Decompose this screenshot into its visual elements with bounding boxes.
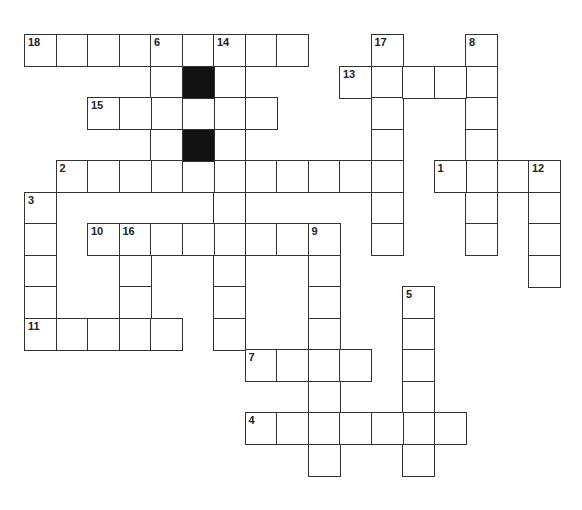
crossword-cell[interactable] [213,192,246,225]
crossword-cell[interactable] [213,160,246,193]
crossword-cell[interactable] [87,318,120,351]
clue-number: 1 [438,162,444,174]
black-cell [182,66,215,99]
crossword-cell[interactable] [119,97,152,130]
crossword-cell[interactable]: 4 [245,412,278,445]
crossword-cell[interactable]: 2 [56,160,89,193]
crossword-cell[interactable] [24,286,57,319]
crossword-cell[interactable] [213,255,246,288]
crossword-cell[interactable] [308,381,341,414]
crossword-cell[interactable] [182,160,215,193]
crossword-cell[interactable] [213,66,246,99]
crossword-cell[interactable] [119,34,152,67]
crossword-cell[interactable]: 12 [528,160,561,193]
crossword-cell[interactable] [308,349,341,382]
crossword-cell[interactable] [56,318,89,351]
crossword-cell[interactable]: 15 [87,97,120,130]
crossword-cell[interactable] [371,192,404,225]
crossword-cell[interactable]: 8 [465,34,498,67]
crossword-cell[interactable]: 7 [245,349,278,382]
crossword-cell[interactable] [213,223,246,256]
crossword-cell[interactable] [56,34,89,67]
crossword-cell[interactable] [245,223,278,256]
crossword-cell[interactable] [371,97,404,130]
crossword-cell[interactable]: 5 [402,286,435,319]
crossword-cell[interactable]: 13 [339,66,372,99]
crossword-cell[interactable] [371,66,404,99]
crossword-cell[interactable] [213,129,246,162]
crossword-cell[interactable] [434,66,467,99]
crossword-cell[interactable] [245,34,278,67]
crossword-cell[interactable] [465,66,498,99]
crossword-cell[interactable] [528,192,561,225]
crossword-cell[interactable]: 18 [24,34,57,67]
crossword-cell[interactable] [150,66,183,99]
crossword-cell[interactable]: 6 [150,34,183,67]
crossword-cell[interactable] [119,160,152,193]
crossword-cell[interactable] [245,97,278,130]
crossword-cell[interactable] [528,223,561,256]
crossword-cell[interactable] [528,255,561,288]
crossword-cell[interactable] [182,34,215,67]
crossword-cell[interactable]: 10 [87,223,120,256]
crossword-cell[interactable]: 11 [24,318,57,351]
crossword-cell[interactable] [182,223,215,256]
crossword-cell[interactable] [465,160,498,193]
crossword-cell[interactable] [276,223,309,256]
crossword-cell[interactable] [308,412,341,445]
crossword-cell[interactable] [371,223,404,256]
crossword-cell[interactable] [371,160,404,193]
crossword-cell[interactable] [339,160,372,193]
crossword-cell[interactable] [276,160,309,193]
crossword-cell[interactable] [465,223,498,256]
clue-number: 5 [406,288,412,300]
crossword-cell[interactable] [465,192,498,225]
crossword-cell[interactable] [150,160,183,193]
crossword-cell[interactable] [150,97,183,130]
crossword-cell[interactable]: 17 [371,34,404,67]
crossword-cell[interactable] [150,318,183,351]
crossword-cell[interactable] [308,286,341,319]
crossword-cell[interactable] [308,444,341,477]
crossword-cell[interactable]: 1 [434,160,467,193]
crossword-cell[interactable] [213,286,246,319]
crossword-cell[interactable] [402,318,435,351]
crossword-cell[interactable] [87,34,120,67]
crossword-cell[interactable] [339,412,372,445]
crossword-cell[interactable] [308,160,341,193]
crossword-cell[interactable] [371,129,404,162]
crossword-cell[interactable] [213,318,246,351]
crossword-cell[interactable] [465,97,498,130]
crossword-cell[interactable] [402,349,435,382]
crossword-cell[interactable]: 14 [213,34,246,67]
crossword-cell[interactable]: 16 [119,223,152,256]
crossword-cell[interactable] [119,286,152,319]
crossword-cell[interactable] [371,412,404,445]
crossword-cell[interactable] [339,349,372,382]
crossword-cell[interactable]: 3 [24,192,57,225]
crossword-cell[interactable] [308,255,341,288]
crossword-cell[interactable] [497,160,530,193]
crossword-cell[interactable] [182,97,215,130]
crossword-cell[interactable] [24,223,57,256]
crossword-cell[interactable] [402,412,435,445]
crossword-cell[interactable] [276,412,309,445]
crossword-cell[interactable] [308,318,341,351]
crossword-cell[interactable] [24,255,57,288]
crossword-cell[interactable] [119,255,152,288]
crossword-cell[interactable] [150,223,183,256]
crossword-cell[interactable] [213,97,246,130]
crossword-cell[interactable] [119,318,152,351]
crossword-cell[interactable] [245,160,278,193]
crossword-cell[interactable] [150,129,183,162]
crossword-cell[interactable] [276,349,309,382]
crossword-cell[interactable] [402,66,435,99]
crossword-cell[interactable] [402,381,435,414]
crossword-cell[interactable] [465,129,498,162]
crossword-cell[interactable] [402,444,435,477]
crossword-cell[interactable] [276,34,309,67]
crossword-cell[interactable]: 9 [308,223,341,256]
crossword-cell[interactable] [434,412,467,445]
clue-number: 18 [28,36,40,48]
crossword-cell[interactable] [87,160,120,193]
